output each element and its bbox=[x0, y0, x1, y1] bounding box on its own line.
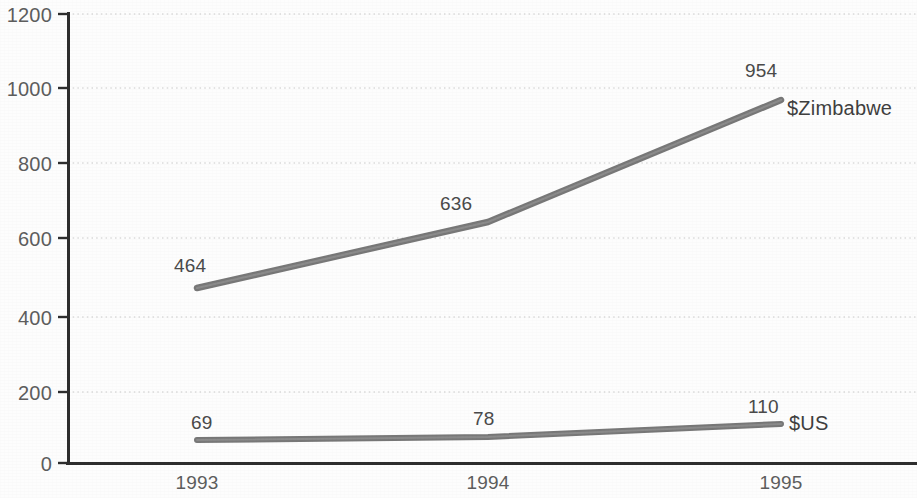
x-tick-label-1995: 1995 bbox=[736, 472, 826, 494]
y-tick-label-0: 0 bbox=[0, 453, 52, 476]
y-tick-label-200: 200 bbox=[0, 382, 52, 405]
y-tick-label-400: 400 bbox=[0, 307, 52, 330]
data-label-us-1994: 78 bbox=[473, 408, 495, 430]
series-label-us: $US bbox=[789, 412, 829, 435]
y-tick-label-1200: 1200 bbox=[0, 4, 52, 27]
series-line-zimbabwe bbox=[197, 100, 781, 288]
series-label-zimbabwe: $Zimbabwe bbox=[787, 97, 892, 120]
y-tick-label-800: 800 bbox=[0, 153, 52, 176]
data-label-zimbabwe-1994: 636 bbox=[440, 193, 472, 215]
line-chart: 1200 1000 800 600 400 200 0 1993 1994 19… bbox=[0, 0, 917, 498]
y-tick-label-600: 600 bbox=[0, 228, 52, 251]
x-tick-label-1994: 1994 bbox=[443, 472, 533, 494]
y-tick-label-1000: 1000 bbox=[0, 78, 52, 101]
gridlines bbox=[68, 14, 917, 392]
data-label-zimbabwe-1995: 954 bbox=[745, 60, 777, 82]
data-label-us-1995: 110 bbox=[748, 396, 779, 418]
series-line-zimbabwe-highlight bbox=[197, 100, 781, 288]
chart-canvas bbox=[0, 0, 917, 498]
data-label-us-1993: 69 bbox=[191, 412, 213, 434]
data-label-zimbabwe-1993: 464 bbox=[174, 255, 206, 277]
x-tick-label-1993: 1993 bbox=[152, 472, 242, 494]
